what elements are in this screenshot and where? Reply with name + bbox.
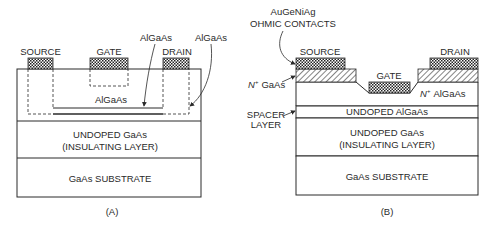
panel-a-source-label: SOURCE bbox=[20, 46, 61, 57]
panel-a-callout-algaas-1: AlGaAs bbox=[140, 32, 172, 43]
panel-b-n-gaas-source bbox=[296, 69, 356, 82]
panel-b-insulating-label-1: UNDOPED GaAs bbox=[350, 127, 424, 138]
panel-b: AuGeNiAg OHMIC CONTACTS SOURCE DRAIN GAT… bbox=[247, 6, 478, 217]
panel-a-insulating-label-2: (INSULATING LAYER) bbox=[62, 141, 158, 152]
panel-b-gate-label: GATE bbox=[376, 70, 401, 81]
panel-b-insulating-label-2: (INSULATING LAYER) bbox=[339, 139, 435, 150]
diagram-canvas: SOURCE GATE DRAIN AlGaAs AlGaAs AlGaAs U… bbox=[0, 0, 492, 230]
panel-b-n-gaas-label: N+GaAs bbox=[248, 79, 285, 90]
panel-a-gate-depletion-dashed bbox=[90, 69, 128, 86]
panel-a-drain-contact bbox=[163, 58, 189, 69]
panel-b-ohmic-callout-arrow bbox=[280, 31, 295, 64]
panel-b-drain-label: DRAIN bbox=[440, 46, 470, 57]
panel-a-callout-arrow-1 bbox=[144, 44, 155, 106]
panel-a-gate-contact bbox=[90, 58, 128, 69]
panel-a-substrate-label: GaAs SUBSTRATE bbox=[69, 173, 152, 184]
panel-b-gate-contact bbox=[369, 82, 410, 93]
panel-b-spacer-layer-label: UNDOPED AlGaAs bbox=[346, 106, 428, 117]
panel-b-source-contact bbox=[296, 58, 345, 69]
panel-a-insulating-label-1: UNDOPED GaAs bbox=[73, 129, 147, 140]
panel-a-active-layer-label: AlGaAs bbox=[95, 94, 127, 105]
panel-a-caption: (A) bbox=[106, 206, 119, 217]
panel-b-drain-contact bbox=[430, 58, 478, 69]
panel-a-drain-label: DRAIN bbox=[162, 46, 192, 57]
panel-b-source-label: SOURCE bbox=[300, 46, 341, 57]
panel-b-ohmic-label-1: AuGeNiAg bbox=[271, 6, 316, 17]
panel-a-callout-algaas-2: AlGaAs bbox=[195, 32, 227, 43]
panel-a-source-contact bbox=[28, 58, 53, 69]
panel-a-gate-label: GATE bbox=[96, 46, 121, 57]
panel-b-substrate-label: GaAs SUBSTRATE bbox=[346, 171, 429, 182]
panel-b-ohmic-label-2: OHMIC CONTACTS bbox=[250, 18, 336, 29]
panel-b-caption: (B) bbox=[381, 206, 394, 217]
panel-b-n-gaas-drain bbox=[418, 69, 478, 82]
panel-b-spacer-label-2: LAYER bbox=[251, 119, 282, 130]
panel-a: SOURCE GATE DRAIN AlGaAs AlGaAs AlGaAs U… bbox=[17, 32, 227, 217]
panel-a-algaas-region-dashed bbox=[28, 69, 189, 114]
